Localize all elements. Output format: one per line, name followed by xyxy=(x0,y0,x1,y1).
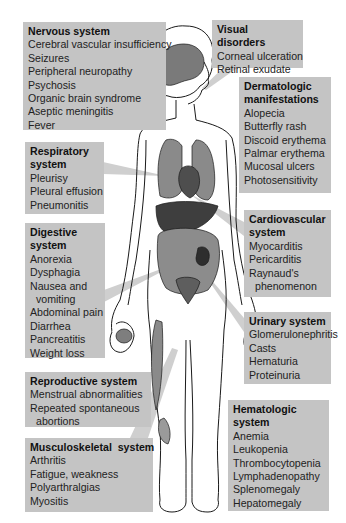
nervous-item: Psychosis xyxy=(28,79,161,92)
digestive-item: Dysphagia xyxy=(30,266,100,279)
cardiovascular-title-line1: Cardiovascular xyxy=(249,213,326,226)
musculoskeletal-item: Fatigue, weakness xyxy=(30,468,148,481)
dermatologic-item: Alopecia xyxy=(244,107,326,120)
dermatologic-item: Discoid erythema xyxy=(244,134,326,147)
box-respiratory-system: Respiratory system Pleurisy Pleural effu… xyxy=(25,142,104,214)
box-cardiovascular-system: Cardiovascular system Myocarditis Perica… xyxy=(244,210,331,297)
hematologic-item: Anemia xyxy=(233,430,324,443)
respiratory-item: Pleurisy xyxy=(30,172,99,185)
musculoskeletal-item: Arthritis xyxy=(30,454,148,467)
hematologic-title-line2: system xyxy=(233,416,324,429)
reproductive-item: Repeated spontaneous xyxy=(30,402,146,415)
box-dermatologic-manifestations: Dermatologic manifestations Alopecia But… xyxy=(239,77,331,193)
hematologic-item: Splenomegaly xyxy=(233,483,324,496)
musculoskeletal-item: Myositis xyxy=(30,495,148,508)
respiratory-title-line1: Respiratory xyxy=(30,145,99,158)
digestive-title-line1: Digestive xyxy=(30,226,100,239)
dermatologic-item: Mucosal ulcers xyxy=(244,160,326,173)
respiratory-title-line2: system xyxy=(30,158,99,171)
nervous-item: Peripheral neuropathy xyxy=(28,65,161,78)
digestive-item: Anorexia xyxy=(30,253,100,266)
nervous-item: Cerebral vascular insufficiency xyxy=(28,38,161,51)
box-visual-disorders: Visual disorders Corneal ulceration Reti… xyxy=(212,20,303,68)
respiratory-item: Pneumonitis xyxy=(30,199,99,212)
box-digestive-system: Digestive system Anorexia Dysphagia Naus… xyxy=(25,223,105,358)
cardiovascular-title-line2: system xyxy=(249,226,326,239)
urinary-item: Glomerulonephritis xyxy=(249,328,326,341)
digestive-item: Diarrhea xyxy=(30,320,100,333)
cardiovascular-item: Myocarditis xyxy=(249,240,326,253)
hematologic-item: Leukopenia xyxy=(233,443,324,456)
dermatologic-item: Photosensitivity xyxy=(244,174,326,187)
nervous-item: Organic brain syndrome xyxy=(28,92,161,105)
digestive-item: Pancreatitis xyxy=(30,333,100,346)
hematologic-item: Lymphadenopathy xyxy=(233,470,324,483)
lupus-body-systems-diagram: Nervous system Cerebral vascular insuffi… xyxy=(0,0,346,523)
cardiovascular-item: Pericarditis xyxy=(249,253,326,266)
dermatologic-title-line1: Dermatologic xyxy=(244,80,326,93)
dermatologic-title-line2: manifestations xyxy=(244,93,326,106)
nervous-system-title: Nervous system xyxy=(28,25,161,38)
urinary-system-title: Urinary system xyxy=(249,315,326,328)
musculoskeletal-item: Polyarthralgias xyxy=(30,481,148,494)
respiratory-item: Pleural effusion xyxy=(30,185,99,198)
hematologic-item: Hepatomegaly xyxy=(233,497,324,510)
digestive-item: Nausea and xyxy=(30,280,100,293)
cardiovascular-item: phenomenon xyxy=(249,280,326,293)
dermatologic-item: Butterfly rash xyxy=(244,120,326,133)
box-musculoskeletal-system: Musculoskeletal system Arthritis Fatigue… xyxy=(25,438,153,512)
box-urinary-system: Urinary system Glomerulonephritis Casts … xyxy=(244,312,331,384)
visual-item: Corneal ulceration xyxy=(217,50,298,63)
digestive-item: Weight loss xyxy=(30,347,100,360)
hematologic-title-line1: Hematologic xyxy=(233,403,324,416)
visual-item: Retinal exudate xyxy=(217,63,298,76)
box-nervous-system: Nervous system Cerebral vascular insuffi… xyxy=(23,22,166,130)
digestive-item: vomiting xyxy=(30,293,100,306)
dermatologic-item: Palmar erythema xyxy=(244,147,326,160)
box-hematologic-system: Hematologic system Anemia Leukopenia Thr… xyxy=(228,400,329,511)
nervous-item: Aseptic meningitis xyxy=(28,105,161,118)
nervous-item: Fever xyxy=(28,119,161,132)
urinary-item: Casts xyxy=(249,342,326,355)
hematologic-item: Thrombocytopenia xyxy=(233,457,324,470)
urinary-item: Hematuria xyxy=(249,355,326,368)
box-reproductive-system: Reproductive system Menstrual abnormalit… xyxy=(25,372,151,427)
reproductive-item: abortions xyxy=(30,415,146,428)
reproductive-item: Menstrual abnormalities xyxy=(30,388,146,401)
digestive-item: Abdominal pain xyxy=(30,306,100,319)
cardiovascular-item: Raynaud's xyxy=(249,267,326,280)
digestive-title-line2: system xyxy=(30,239,100,252)
visual-disorders-title: Visual disorders xyxy=(217,23,298,50)
urinary-item: Proteinuria xyxy=(249,369,326,382)
nervous-item: Seizures xyxy=(28,52,161,65)
musculoskeletal-system-title: Musculoskeletal system xyxy=(30,441,148,454)
reproductive-system-title: Reproductive system xyxy=(30,375,146,388)
